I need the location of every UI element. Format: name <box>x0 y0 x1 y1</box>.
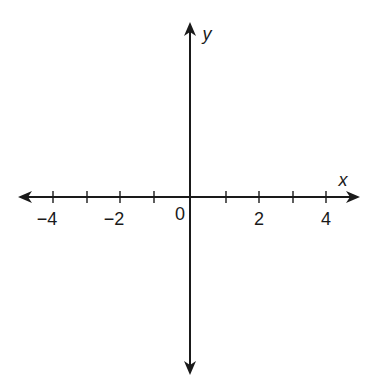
y-axis <box>184 22 196 375</box>
x-tick-label-neg4: −4 <box>37 209 58 229</box>
x-tick-label-2: 2 <box>254 209 264 229</box>
x-tick-label-neg2: −2 <box>104 209 125 229</box>
coordinate-plane: −4 −2 2 4 0 x y <box>0 0 374 385</box>
y-axis-label: y <box>201 24 213 44</box>
x-axis-label: x <box>338 170 349 190</box>
origin-label: 0 <box>175 204 185 224</box>
x-tick-label-4: 4 <box>321 209 331 229</box>
